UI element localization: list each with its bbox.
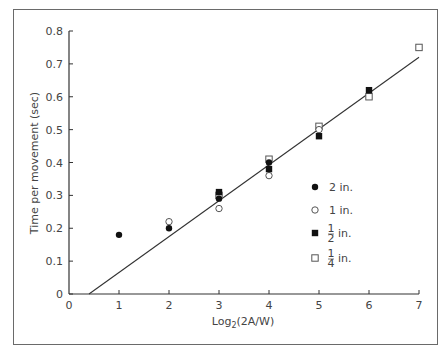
y-tick-label: 0.2 — [46, 222, 64, 235]
y-tick-label: 0.1 — [46, 255, 64, 268]
y-tick-label: 0.4 — [46, 157, 64, 170]
data-point-filled-square — [266, 166, 272, 172]
data-point-filled-circle — [266, 159, 272, 165]
y-tick-label: 0.8 — [46, 25, 64, 38]
x-tick-label: 7 — [416, 299, 423, 312]
y-tick-label: 0.3 — [46, 189, 64, 202]
data-point-filled-square — [366, 87, 372, 93]
x-tick-label: 1 — [116, 299, 123, 312]
data-point-open-square — [366, 94, 372, 100]
data-point-filled-square — [216, 189, 222, 195]
data-point-filled-square — [316, 133, 322, 139]
legend-open-circle-icon — [312, 207, 318, 213]
x-tick-label: 5 — [316, 299, 323, 312]
axes: 00.10.20.30.40.50.60.70.801234567 — [46, 25, 423, 312]
data-point-open-square — [416, 44, 422, 50]
y-tick-label: 0.5 — [46, 124, 64, 137]
legend-fraction-denominator: 2 — [328, 232, 335, 245]
legend-item: 14in. — [312, 247, 352, 270]
legend-label: 1 in. — [329, 204, 353, 217]
x-tick-label: 4 — [266, 299, 273, 312]
legend-filled-square-icon — [312, 230, 318, 236]
legend-filled-circle-icon — [312, 184, 318, 190]
data-point-open-circle — [216, 205, 222, 211]
data-point-filled-circle — [216, 195, 222, 201]
legend-unit: in. — [338, 227, 352, 240]
legend-unit: in. — [338, 252, 352, 265]
data-point-filled-circle — [166, 225, 172, 231]
data-point-open-circle — [316, 126, 322, 132]
x-tick-label: 3 — [216, 299, 223, 312]
x-tick-label: 0 — [66, 299, 73, 312]
data-point-open-circle — [266, 172, 272, 178]
x-tick-label: 6 — [366, 299, 373, 312]
x-axis-title-main: Log — [212, 315, 232, 328]
x-tick-label: 2 — [166, 299, 173, 312]
data-point-open-circle — [166, 218, 172, 224]
legend-item: 2 in. — [312, 181, 353, 194]
x-axis-title: Log2(2A/W) — [212, 315, 274, 330]
y-tick-label: 0 — [56, 288, 63, 301]
y-tick-label: 0.6 — [46, 91, 64, 104]
scatter-chart: 00.10.20.30.40.50.60.70.801234567 2 in.1… — [0, 0, 448, 356]
y-axis-title: Time per movement (sec) — [28, 92, 41, 235]
legend-fraction-denominator: 4 — [328, 257, 335, 270]
y-tick-label: 0.7 — [46, 58, 64, 71]
legend-item: 12in. — [312, 222, 352, 245]
legend-open-square-icon — [312, 255, 318, 261]
legend-item: 1 in. — [312, 204, 353, 217]
legend-label: 2 in. — [329, 181, 353, 194]
data-point-filled-circle — [116, 232, 122, 238]
data-points — [116, 44, 422, 238]
x-axis-title-rest: (2A/W) — [237, 315, 275, 328]
legend: 2 in.1 in.12in.14in. — [312, 181, 353, 270]
